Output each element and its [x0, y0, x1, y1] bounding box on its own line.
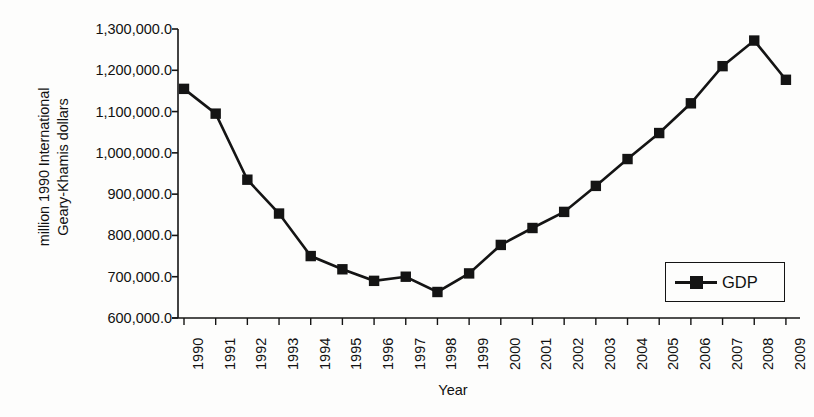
plot-area [0, 0, 814, 417]
legend: GDP [665, 262, 785, 302]
data-point-marker [749, 35, 759, 45]
data-point-marker [496, 240, 506, 250]
data-point-marker [274, 208, 284, 218]
data-point-marker [654, 128, 664, 138]
data-point-marker [717, 61, 727, 71]
data-point-marker [622, 154, 632, 164]
data-point-marker [401, 272, 411, 282]
y-axis-tick-marks [172, 29, 178, 318]
data-point-marker [591, 181, 601, 191]
data-point-marker [242, 174, 252, 184]
data-point-marker [369, 276, 379, 286]
data-point-marker [210, 108, 220, 118]
gdp-series-line [184, 41, 786, 292]
data-point-marker [337, 264, 347, 274]
legend-square-icon [690, 276, 703, 289]
x-axis-title: Year [0, 382, 814, 398]
data-point-marker [559, 207, 569, 217]
data-point-marker [306, 251, 316, 261]
x-axis-tick-marks [184, 318, 786, 325]
data-point-marker [464, 268, 474, 278]
data-point-marker [686, 98, 696, 108]
data-point-marker [179, 84, 189, 94]
data-point-marker [432, 287, 442, 297]
gdp-line-chart: million 1990 International Geary-Khamis … [0, 0, 814, 417]
legend-label-gdp: GDP [722, 273, 758, 292]
data-point-marker [781, 75, 791, 85]
data-point-marker [527, 223, 537, 233]
legend-marker-gdp [672, 272, 720, 292]
x-axis-title-text: Year [438, 382, 467, 398]
